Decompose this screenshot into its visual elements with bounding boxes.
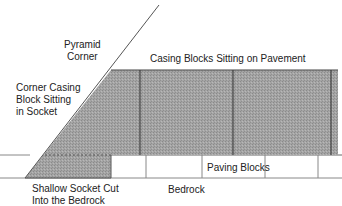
socket-label: Shallow Socket Cut Into the Bedrock xyxy=(32,183,119,206)
casing-blocks-label: Casing Blocks Sitting on Pavement xyxy=(150,53,306,65)
corner-casing-label: Corner Casing Block Sitting in Socket xyxy=(16,82,80,118)
pyramid-corner-label: Pyramid Corner xyxy=(64,39,101,63)
bedrock-label: Bedrock xyxy=(168,184,205,196)
paving-blocks-label: Paving Blocks xyxy=(207,162,270,174)
pyramid-casing-diagram: Pyramid Corner Casing Blocks Sitting on … xyxy=(0,0,342,206)
